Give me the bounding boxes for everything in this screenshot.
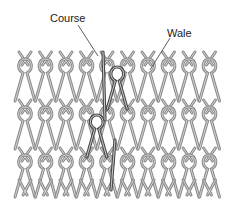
knit-loops bbox=[15, 52, 220, 197]
knit-fabric-diagram bbox=[0, 0, 227, 206]
highlighted-stitches bbox=[87, 52, 128, 190]
